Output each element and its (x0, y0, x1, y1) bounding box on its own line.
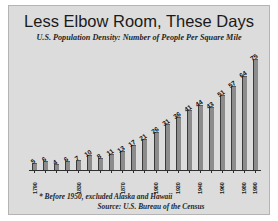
tick-slot (217, 170, 228, 173)
x-axis-tick (34, 170, 35, 173)
bar-value-label: 6 (41, 155, 48, 163)
x-axis-label: 1900 (153, 174, 159, 194)
tick-slot (62, 170, 73, 173)
bar: 51 (220, 95, 225, 170)
x-axis-tick (178, 170, 179, 173)
bar-value-label: 57 (227, 79, 237, 89)
x-label-slot: 1790 (29, 174, 40, 194)
tick-slot (139, 170, 150, 173)
x-label-slot: 1940 (195, 174, 206, 194)
bar-slot: 41 (184, 52, 195, 170)
bar-slot: 4 (51, 52, 62, 170)
bar: 11 (109, 154, 114, 170)
bar-value-label: 13 (116, 144, 126, 154)
x-label-slot: 1960 (217, 174, 228, 194)
tick-slot (117, 170, 128, 173)
bar: 7 (76, 160, 81, 170)
bar-value-label: 10 (83, 148, 93, 158)
bar-slot: 44 (195, 52, 206, 170)
x-axis-tick (211, 170, 212, 173)
tick-slot (73, 170, 84, 173)
tick-slot (106, 170, 117, 173)
tick-slot (84, 170, 95, 173)
bar-slot: 10 (84, 52, 95, 170)
bar-slot: 57 (228, 52, 239, 170)
chart-figure: Less Elbow Room, These Days U.S. Populat… (8, 5, 270, 215)
bar: 21 (142, 139, 147, 170)
x-axis-ticks (29, 170, 261, 173)
tick-slot (228, 170, 239, 173)
bar-slot: 64 (239, 52, 250, 170)
bar-slot: 51 (217, 52, 228, 170)
x-axis-label: 1980 (241, 174, 247, 194)
x-label-slot: 1990 (250, 174, 261, 194)
bar: 6 (65, 161, 70, 170)
tick-slot (184, 170, 195, 173)
bar-slot: 31 (162, 52, 173, 170)
bar-slot: 6 (62, 52, 73, 170)
x-axis-tick (144, 170, 145, 173)
bar-value-label: 36 (172, 110, 182, 120)
x-axis-label: 1990 (252, 174, 258, 194)
tick-slot (162, 170, 173, 173)
x-label-slot: 1920 (173, 174, 184, 194)
x-axis-labels: 1790180018101820183018401850186018701880… (29, 174, 261, 194)
x-axis-label: 1960 (219, 174, 225, 194)
bar-slot: 11 (106, 52, 117, 170)
x-axis-tick (122, 170, 123, 173)
bar-value-label: 17 (127, 138, 137, 148)
x-label-slot: 1930 (184, 174, 195, 194)
x-label-slot: 1860 (106, 174, 117, 194)
x-axis-label: 1870 (120, 174, 126, 194)
bar-value-label: 26 (149, 125, 159, 135)
x-axis-tick (233, 170, 234, 173)
source-text: Source: U.S. Bureau of the Census (9, 202, 269, 212)
x-axis-tick (100, 170, 101, 173)
bar-slot: 43 (206, 52, 217, 170)
x-axis-tick (200, 170, 201, 173)
bar-slot: 13 (117, 52, 128, 170)
tick-slot (195, 170, 206, 173)
x-axis-tick (222, 170, 223, 173)
bar-value-label: 43 (205, 100, 215, 110)
tick-slot (40, 170, 51, 173)
tick-slot (173, 170, 184, 173)
bar: 31 (165, 124, 170, 170)
bar: 26 (154, 132, 159, 170)
x-axis-tick (56, 170, 57, 173)
x-label-slot: 1810 (51, 174, 62, 194)
x-label-slot: 1970 (228, 174, 239, 194)
bar: 10 (87, 155, 92, 170)
tick-slot (95, 170, 106, 173)
bar-value-label: 6 (63, 155, 70, 163)
x-axis-tick (78, 170, 79, 173)
bar-slot: 21 (139, 52, 150, 170)
bar-value-label: 64 (238, 69, 248, 79)
x-label-slot: 1870 (117, 174, 128, 194)
x-label-slot: 1800 (40, 174, 51, 194)
bar: 41 (187, 110, 192, 170)
x-label-slot: 1830 (73, 174, 84, 194)
tick-slot (128, 170, 139, 173)
bar-slot: 36 (173, 52, 184, 170)
tick-slot (239, 170, 250, 173)
bar: 13 (120, 151, 125, 170)
tick-slot (151, 170, 162, 173)
bar-value-label: 44 (194, 98, 204, 108)
x-axis-tick (244, 170, 245, 173)
x-axis-tick (255, 170, 256, 173)
bar: 57 (231, 86, 236, 170)
chart-title: Less Elbow Room, These Days (9, 12, 269, 31)
x-axis-tick (45, 170, 46, 173)
bar-value-label: 4 (52, 158, 59, 166)
bar-value-label: 51 (216, 88, 226, 98)
bar: 64 (242, 76, 247, 170)
x-label-slot: 1980 (239, 174, 250, 194)
x-label-slot: 1840 (84, 174, 95, 194)
x-axis-tick (89, 170, 90, 173)
x-label-slot: 1910 (162, 174, 173, 194)
bar: 43 (209, 107, 214, 170)
tick-slot (51, 170, 62, 173)
title-block: Less Elbow Room, These Days U.S. Populat… (9, 12, 269, 43)
bar: 8 (98, 158, 103, 170)
